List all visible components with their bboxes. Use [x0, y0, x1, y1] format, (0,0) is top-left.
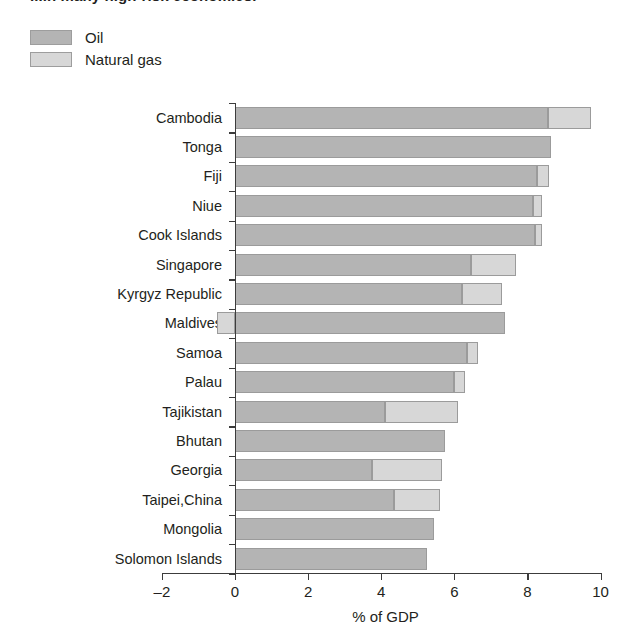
x-axis-tick-label: 8 — [523, 583, 531, 600]
y-axis-tick — [229, 544, 235, 545]
x-axis-tick — [235, 573, 236, 580]
y-axis-tick — [229, 191, 235, 192]
stacked-bar — [0, 401, 624, 423]
stacked-bar — [0, 224, 624, 246]
bar-segment-oil — [235, 459, 372, 481]
x-axis-tick-label: 0 — [231, 583, 239, 600]
y-axis-tick — [229, 338, 235, 339]
x-axis-label: % of GDP — [352, 608, 419, 625]
bar-segment-natural-gas — [372, 459, 441, 481]
bar-segment-oil — [235, 254, 471, 276]
x-axis-tick-label: –2 — [154, 583, 171, 600]
x-axis-tick — [527, 573, 528, 580]
x-axis-tick-label: 4 — [377, 583, 385, 600]
bar-segment-natural-gas — [471, 254, 517, 276]
stacked-bar — [0, 518, 624, 540]
stacked-bar — [0, 165, 624, 187]
bar-segment-natural-gas — [454, 371, 465, 393]
bar-rows: CambodiaTongaFijiNiueCook IslandsSingapo… — [0, 103, 624, 573]
y-axis-tick — [229, 103, 235, 104]
bar-row: Kyrgyz Republic — [0, 279, 624, 308]
stacked-bar — [0, 430, 624, 452]
bar-segment-oil — [235, 430, 445, 452]
y-axis-tick — [229, 250, 235, 251]
bar-row: Solomon Islands — [0, 544, 624, 573]
x-axis-label-container: % of GDP — [0, 608, 624, 625]
bar-row: Cambodia — [0, 103, 624, 132]
y-axis-tick — [229, 132, 235, 133]
bar-row: Bhutan — [0, 426, 624, 455]
bar-segment-natural-gas — [533, 195, 542, 217]
bar-row: Maldives — [0, 309, 624, 338]
stacked-bar — [0, 107, 624, 129]
y-axis-tick — [229, 221, 235, 222]
y-axis-tick — [229, 162, 235, 163]
x-axis-tick-label: 10 — [592, 583, 609, 600]
bar-segment-natural-gas — [462, 283, 502, 305]
bar-row: Fiji — [0, 162, 624, 191]
bar-segment-oil — [235, 136, 551, 158]
x-axis-tick — [381, 573, 382, 580]
x-axis-tick-label: 6 — [450, 583, 458, 600]
bar-row: Niue — [0, 191, 624, 220]
bar-segment-natural-gas — [537, 165, 550, 187]
bar-segment-natural-gas — [385, 401, 458, 423]
x-axis-tick — [162, 573, 163, 580]
bar-segment-oil — [235, 342, 467, 364]
bar-segment-oil — [235, 165, 537, 187]
stacked-bar — [0, 254, 624, 276]
stacked-bar — [0, 312, 624, 334]
bar-row: Singapore — [0, 250, 624, 279]
bar-segment-oil — [235, 195, 533, 217]
bar-segment-oil — [235, 401, 385, 423]
x-axis-line — [163, 573, 602, 574]
stacked-bar — [0, 548, 624, 570]
bar-row: Tajikistan — [0, 397, 624, 426]
bar-segment-natural-gas — [394, 489, 440, 511]
y-axis-tick — [229, 456, 235, 457]
bar-segment-oil — [235, 107, 548, 129]
x-axis-tick — [308, 573, 309, 580]
stacked-bar — [0, 371, 624, 393]
y-axis-tick — [229, 426, 235, 427]
bar-chart-plot-area: CambodiaTongaFijiNiueCook IslandsSingapo… — [0, 0, 624, 642]
y-axis-tick — [229, 515, 235, 516]
bar-segment-oil — [235, 224, 535, 246]
stacked-bar — [0, 342, 624, 364]
bar-segment-natural-gas — [217, 312, 235, 334]
x-axis-tick-label: 2 — [304, 583, 312, 600]
bar-segment-oil — [235, 518, 434, 540]
bar-row: Taipei,China — [0, 485, 624, 514]
y-axis-tick — [229, 397, 235, 398]
x-axis-tick — [454, 573, 455, 580]
x-axis-tick — [601, 573, 602, 580]
bar-segment-oil — [235, 548, 427, 570]
bar-segment-oil — [235, 312, 505, 334]
stacked-bar — [0, 136, 624, 158]
y-axis-line — [235, 103, 236, 573]
bar-row: Tonga — [0, 132, 624, 161]
bar-segment-natural-gas — [467, 342, 478, 364]
bar-row: Georgia — [0, 456, 624, 485]
bar-row: Mongolia — [0, 514, 624, 543]
bar-segment-natural-gas — [548, 107, 592, 129]
stacked-bar — [0, 283, 624, 305]
stacked-bar — [0, 459, 624, 481]
stacked-bar — [0, 489, 624, 511]
bar-segment-oil — [235, 371, 454, 393]
stacked-bar — [0, 195, 624, 217]
bar-segment-oil — [235, 489, 394, 511]
bar-row: Cook Islands — [0, 221, 624, 250]
bar-row: Palau — [0, 368, 624, 397]
y-axis-tick — [229, 485, 235, 486]
y-axis-tick — [229, 309, 235, 310]
bar-segment-natural-gas — [535, 224, 542, 246]
y-axis-tick — [229, 279, 235, 280]
y-axis-tick — [229, 368, 235, 369]
bar-row: Samoa — [0, 338, 624, 367]
bar-segment-oil — [235, 283, 462, 305]
